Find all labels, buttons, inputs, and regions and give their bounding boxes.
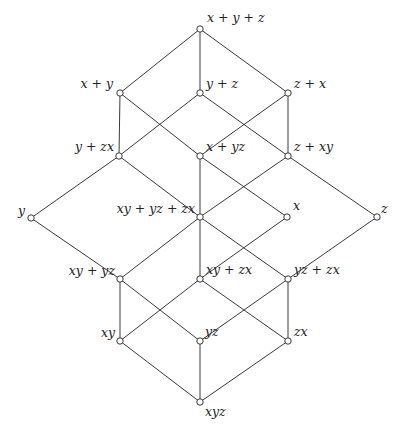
node-zx — [285, 338, 291, 344]
node-label-xpy: x + y — [80, 76, 113, 91]
node-yzpzx — [285, 276, 291, 282]
lattice-diagram: x + y + zx + yy + zz + xy + zxx + yzz + … — [0, 0, 402, 432]
edge-xy-bottom — [120, 341, 200, 402]
node-ypzx — [116, 153, 122, 159]
node-yz — [197, 338, 203, 344]
node-zpx — [285, 90, 291, 96]
node-label-bottom: xyz — [205, 404, 226, 419]
node-zpxy — [285, 153, 291, 159]
node-med — [197, 214, 203, 220]
node-xpyz — [197, 153, 203, 159]
node-top — [197, 26, 203, 32]
node-xypzx — [197, 276, 203, 282]
node-label-yzpzx: yz + zx — [293, 262, 340, 277]
node-label-xpyz: x + yz — [206, 139, 246, 154]
node-label-med: xy + yz + zx — [117, 201, 195, 216]
node-xy — [117, 338, 123, 344]
edge-med-xypyz — [120, 217, 200, 279]
node-label-z: z — [380, 201, 388, 216]
edge-xpy-ypzx — [119, 93, 120, 156]
node-label-x: x — [293, 198, 300, 213]
node-x — [284, 214, 290, 220]
node-label-ypz: y + z — [205, 76, 238, 91]
node-label-yz: yz — [204, 324, 219, 339]
node-ypz — [197, 90, 203, 96]
node-label-y: y — [17, 203, 26, 218]
node-y — [28, 215, 34, 221]
node-label-zpx: z + x — [293, 76, 326, 91]
node-xypyz — [117, 276, 123, 282]
node-label-xypyz: xy + yz — [69, 263, 116, 278]
node-label-xy: xy — [101, 325, 116, 340]
node-label-ypzx: y + zx — [74, 139, 114, 154]
edge-zx-bottom — [200, 341, 288, 402]
node-xpy — [117, 90, 123, 96]
node-label-top: x + y + z — [207, 10, 265, 25]
edge-zpxy-z — [288, 156, 377, 217]
node-label-xypzx: xy + zx — [206, 262, 252, 277]
node-label-zx: zx — [293, 324, 308, 339]
node-z — [374, 214, 380, 220]
edge-top-xpy — [120, 29, 200, 93]
node-bottom — [197, 399, 203, 405]
edge-ypzx-y — [31, 156, 119, 218]
node-label-zpxy: z + xy — [293, 139, 334, 154]
